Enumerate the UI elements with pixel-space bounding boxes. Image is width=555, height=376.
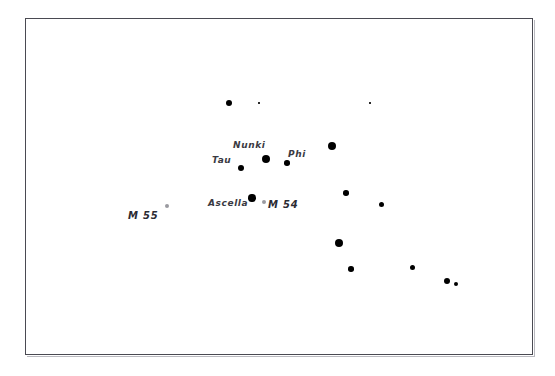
dso-marker-m-55 [165,204,169,208]
star-marker-1 [258,102,260,104]
label-tau: Tau [212,156,231,165]
star-marker-ascella [248,194,255,201]
star-marker-10 [335,239,343,247]
star-marker-9 [379,202,384,207]
star-marker-tau [238,165,245,172]
star-marker-5 [328,142,336,150]
sky-plot-area: NunkiPhiTauAscellaM 54M 55 [26,19,532,354]
star-marker-2 [369,102,371,104]
label-nunki: Nunki [233,141,265,150]
label-ascella: Ascella [208,199,248,208]
star-marker-11 [348,266,354,272]
star-marker-nunki [262,155,270,163]
star-marker-14 [454,282,458,286]
star-marker-8 [343,190,349,196]
star-marker-phi [284,160,290,166]
star-chart: NunkiPhiTauAscellaM 54M 55 [0,0,555,376]
star-marker-0 [226,100,233,107]
label-phi: Phi [288,150,306,159]
label-m-54: M 54 [268,200,299,210]
dso-marker-m-54 [262,200,266,204]
label-m-55: M 55 [128,211,159,221]
star-marker-13 [444,278,450,284]
chart-frame: NunkiPhiTauAscellaM 54M 55 [25,18,533,355]
star-marker-12 [410,265,415,270]
